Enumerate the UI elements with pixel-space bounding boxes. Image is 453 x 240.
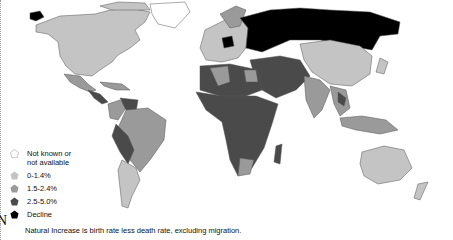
region-indonesia (340, 116, 398, 134)
legend-item-not-known: Not known or not available (10, 149, 71, 167)
legend-item-low: 0-1.4% (10, 171, 71, 180)
legend-label: not available (27, 158, 71, 167)
pentagon-icon (10, 171, 19, 180)
map-footnote: Natural Increase is birth rate less deat… (25, 226, 241, 235)
legend-label: 0-1.4% (27, 171, 51, 180)
region-madagascar (274, 144, 282, 164)
region-mexico (64, 74, 96, 92)
north-letter: N (0, 213, 7, 228)
region-india (304, 76, 330, 118)
pentagon-outline-icon (10, 149, 19, 158)
region-africa (196, 92, 278, 176)
legend-item-high: 2.5-5.0% (10, 197, 71, 206)
region-germany (222, 36, 234, 48)
north-arrow: N (0, 213, 7, 229)
legend-item-decline: Decline (10, 210, 71, 219)
region-caribbean (100, 82, 130, 90)
pentagon-icon (10, 184, 19, 193)
pentagon-icon (10, 210, 19, 219)
map-legend: Not known or not available 0-1.4% 1.5-2.… (10, 149, 71, 223)
pentagon-icon (10, 197, 19, 206)
legend-item-medium: 1.5-2.4% (10, 184, 71, 193)
region-new-zealand (414, 182, 428, 200)
region-southern-africa (238, 158, 254, 176)
region-central-america (88, 90, 108, 104)
region-australia (360, 146, 412, 184)
region-egypt (244, 70, 258, 82)
legend-label: Not known or (27, 149, 71, 158)
legend-label: 2.5-5.0% (27, 197, 57, 206)
region-alaska-tip (30, 11, 44, 21)
legend-label: Decline (27, 210, 52, 219)
region-arctic-islands (100, 2, 150, 10)
region-north-america (36, 8, 150, 76)
region-japan (376, 58, 388, 74)
region-greenland (150, 2, 190, 28)
legend-label: 1.5-2.4% (27, 184, 57, 193)
